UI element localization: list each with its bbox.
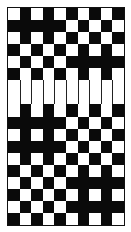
filled-cell xyxy=(112,56,124,69)
empty-cell xyxy=(89,213,101,226)
band-cell xyxy=(78,80,90,104)
filled-cell xyxy=(78,68,90,81)
empty-cell xyxy=(31,104,43,117)
filled-cell xyxy=(43,201,55,214)
filled-cell xyxy=(112,129,124,142)
empty-cell xyxy=(54,129,66,142)
empty-cell xyxy=(20,44,32,57)
filled-cell xyxy=(78,117,90,130)
empty-cell xyxy=(101,129,113,142)
filled-cell xyxy=(78,189,90,202)
filled-cell xyxy=(20,129,32,142)
filled-cell xyxy=(20,153,32,166)
filled-cell xyxy=(31,20,43,33)
filled-cell xyxy=(66,201,78,214)
empty-cell xyxy=(112,117,124,130)
filled-cell xyxy=(8,44,20,57)
empty-cell xyxy=(89,44,101,57)
filled-cell xyxy=(112,104,124,117)
filled-cell xyxy=(101,177,113,190)
empty-cell xyxy=(54,201,66,214)
filled-cell xyxy=(66,104,78,117)
filled-cell xyxy=(89,104,101,117)
band-cell xyxy=(8,80,20,104)
empty-cell xyxy=(31,129,43,142)
empty-cell xyxy=(78,32,90,45)
empty-cell xyxy=(54,177,66,190)
empty-cell xyxy=(43,68,55,81)
empty-cell xyxy=(89,141,101,154)
empty-cell xyxy=(101,8,113,21)
empty-cell xyxy=(101,104,113,117)
filled-cell xyxy=(101,165,113,178)
empty-cell xyxy=(89,189,101,202)
empty-cell xyxy=(8,177,20,190)
filled-cell xyxy=(20,20,32,33)
filled-cell xyxy=(54,141,66,154)
empty-cell xyxy=(54,104,66,117)
filled-cell xyxy=(54,20,66,33)
empty-cell xyxy=(66,68,78,81)
filled-cell xyxy=(89,201,101,214)
filled-cell xyxy=(66,177,78,190)
band-cell xyxy=(43,80,55,104)
filled-cell xyxy=(8,68,20,81)
filled-cell xyxy=(54,68,66,81)
filled-cell xyxy=(31,189,43,202)
filled-cell xyxy=(20,56,32,69)
empty-cell xyxy=(8,32,20,45)
filled-cell xyxy=(20,141,32,154)
filled-cell xyxy=(112,32,124,45)
empty-cell xyxy=(43,165,55,178)
filled-cell xyxy=(54,165,66,178)
empty-cell xyxy=(112,20,124,33)
empty-cell xyxy=(43,189,55,202)
filled-cell xyxy=(43,8,55,21)
empty-cell xyxy=(20,165,32,178)
filled-cell xyxy=(20,32,32,45)
empty-cell xyxy=(89,165,101,178)
band-cell xyxy=(66,80,78,104)
empty-cell xyxy=(89,20,101,33)
filled-cell xyxy=(101,44,113,57)
filled-cell xyxy=(20,8,32,21)
filled-cell xyxy=(43,20,55,33)
band-cell xyxy=(31,80,43,104)
empty-cell xyxy=(89,117,101,130)
empty-cell xyxy=(31,153,43,166)
empty-cell xyxy=(89,68,101,81)
filled-cell xyxy=(89,177,101,190)
filled-cell xyxy=(101,141,113,154)
filled-cell xyxy=(89,153,101,166)
empty-cell xyxy=(43,44,55,57)
filled-cell xyxy=(31,165,43,178)
empty-cell xyxy=(20,213,32,226)
empty-cell xyxy=(8,8,20,21)
band-cell xyxy=(89,80,101,104)
empty-cell xyxy=(54,32,66,45)
empty-cell xyxy=(8,129,20,142)
empty-cell xyxy=(8,104,20,117)
empty-cell xyxy=(31,8,43,21)
filled-cell xyxy=(54,189,66,202)
filled-cell xyxy=(43,177,55,190)
empty-cell xyxy=(8,153,20,166)
filled-cell xyxy=(43,104,55,117)
filled-cell xyxy=(43,153,55,166)
empty-cell xyxy=(66,20,78,33)
filled-cell xyxy=(78,201,90,214)
empty-cell xyxy=(112,213,124,226)
filled-cell xyxy=(20,201,32,214)
filled-cell xyxy=(54,117,66,130)
pattern-grid xyxy=(8,8,124,225)
filled-cell xyxy=(54,44,66,57)
empty-cell xyxy=(66,213,78,226)
empty-cell xyxy=(20,189,32,202)
empty-cell xyxy=(31,32,43,45)
empty-cell xyxy=(54,153,66,166)
filled-cell xyxy=(20,177,32,190)
filled-cell xyxy=(78,165,90,178)
filled-cell xyxy=(66,129,78,142)
filled-cell xyxy=(43,32,55,45)
filled-cell xyxy=(112,153,124,166)
